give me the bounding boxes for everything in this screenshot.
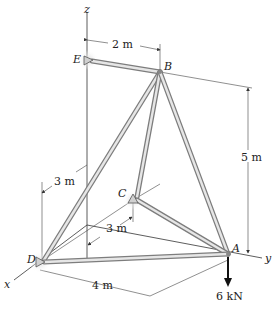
svg-text:3 m: 3 m bbox=[106, 222, 127, 235]
svg-text:y: y bbox=[264, 252, 272, 265]
node-label-d: D bbox=[26, 253, 36, 266]
node-label-a: A bbox=[231, 242, 240, 255]
node-label-b: B bbox=[163, 60, 172, 73]
truss-members bbox=[44, 61, 228, 262]
dim-d-to-a: 4 m bbox=[92, 279, 113, 292]
svg-text:5 m: 5 m bbox=[241, 151, 262, 164]
z-axis: z bbox=[83, 3, 90, 262]
node-label-c: C bbox=[118, 187, 127, 200]
member-eb bbox=[92, 61, 160, 72]
dim-c-offset: 3 m bbox=[88, 217, 132, 245]
node-label-e: E bbox=[72, 53, 81, 66]
member-ba bbox=[160, 72, 228, 254]
member-ca bbox=[137, 200, 228, 254]
load-label: 6 kN bbox=[216, 290, 243, 303]
svg-text:x: x bbox=[4, 278, 11, 291]
joint-a bbox=[226, 252, 230, 256]
svg-text:z: z bbox=[83, 3, 90, 16]
svg-text:4 m: 4 m bbox=[92, 279, 113, 292]
svg-text:2 m: 2 m bbox=[112, 38, 133, 51]
member-da bbox=[44, 254, 228, 262]
svg-text:3 m: 3 m bbox=[54, 175, 75, 188]
truss-diagram: z y x 2 m 5 m 3 m 3 m 4 m bbox=[0, 0, 280, 312]
dim-height-b: 5 m bbox=[241, 88, 262, 253]
truss-figure: z y x 2 m 5 m 3 m 3 m 4 m bbox=[0, 0, 280, 312]
joint-b bbox=[158, 70, 162, 74]
dim-d-offset: 3 m bbox=[42, 165, 87, 193]
